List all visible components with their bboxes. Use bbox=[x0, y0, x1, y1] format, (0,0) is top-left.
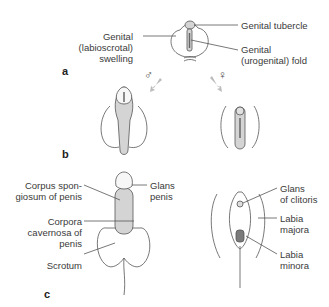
male-adult-drawing bbox=[84, 172, 150, 295]
male-symbol-icon: ♂ bbox=[144, 68, 153, 82]
indifferent-stage-drawing bbox=[143, 21, 238, 61]
label-line: Corpus spon- bbox=[15, 180, 82, 191]
label-line: penis bbox=[150, 191, 175, 202]
label-genital-swelling: Genital (labioscrotal) swelling bbox=[79, 31, 133, 64]
label-line: Labia bbox=[280, 249, 309, 260]
label-line: giosum of penis bbox=[15, 191, 82, 202]
label-line: Genital bbox=[241, 44, 307, 55]
female-symbol-icon: ♀ bbox=[218, 68, 227, 82]
label-corpus-spongiosum: Corpus spon- giosum of penis bbox=[15, 180, 82, 202]
label-line: minora bbox=[280, 260, 309, 271]
label-line: Labia bbox=[280, 213, 309, 224]
female-adult-drawing bbox=[211, 188, 277, 288]
development-arrows bbox=[150, 76, 222, 92]
label-glans-penis: Glans penis bbox=[150, 180, 175, 202]
label-line: Corpora bbox=[28, 216, 82, 227]
label-glans-clitoris: Glans of clitoris bbox=[280, 183, 317, 205]
label-line: Glans bbox=[150, 180, 175, 191]
label-line: swelling bbox=[79, 53, 133, 64]
male-intermediate-drawing bbox=[101, 87, 147, 155]
label-line: cavernosa of bbox=[28, 227, 82, 238]
label-genital-fold: Genital (urogenital) fold bbox=[241, 44, 307, 66]
label-line: penis bbox=[28, 238, 82, 249]
label-labia-minora: Labia minora bbox=[280, 249, 309, 271]
label-line: of clitoris bbox=[280, 194, 317, 205]
label-line: (labioscrotal) bbox=[79, 42, 133, 53]
panel-label-b: b bbox=[62, 148, 69, 160]
label-labia-majora: Labia majora bbox=[280, 213, 309, 235]
female-intermediate-drawing bbox=[221, 106, 259, 149]
label-line: Glans bbox=[280, 183, 317, 194]
label-scrotum: Scrotum bbox=[47, 260, 82, 271]
panel-label-c: c bbox=[44, 288, 50, 300]
label-line: Genital bbox=[79, 31, 133, 42]
label-line: majora bbox=[280, 224, 309, 235]
panel-label-a: a bbox=[62, 65, 68, 77]
label-corpora-cavernosa: Corpora cavernosa of penis bbox=[28, 216, 82, 249]
label-line: (urogenital) fold bbox=[241, 55, 307, 66]
label-genital-tubercle: Genital tubercle bbox=[241, 20, 308, 31]
